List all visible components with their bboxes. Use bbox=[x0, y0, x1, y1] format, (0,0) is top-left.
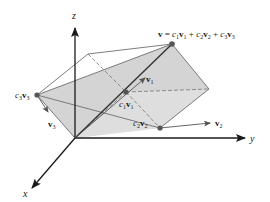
parallelepiped-diagram: z y x v = c1v1 + c2v2 + c3v3 v1 c1v1 c2v… bbox=[0, 0, 270, 202]
point-c1v1 bbox=[123, 89, 128, 94]
y-axis-label: y bbox=[249, 133, 255, 144]
z-axis-label: z bbox=[71, 10, 76, 21]
v3-label: v3 bbox=[48, 119, 56, 130]
equation-label: v = c1v1 + c2v2 + c3v3 bbox=[158, 29, 235, 40]
x-axis-label: x bbox=[22, 188, 28, 199]
point-c2v2 bbox=[157, 125, 162, 130]
vector-v2 bbox=[160, 123, 210, 128]
x-axis bbox=[32, 138, 75, 188]
point-c3v3 bbox=[34, 92, 39, 97]
c3v3-label: c3v3 bbox=[15, 90, 30, 101]
v2-label: v2 bbox=[215, 118, 223, 129]
point-v bbox=[169, 41, 175, 47]
